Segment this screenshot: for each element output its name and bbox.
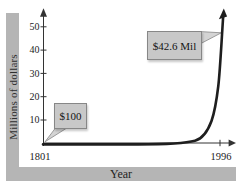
y-axis-arrowhead-icon — [40, 8, 47, 17]
x-axis-arrowhead-icon — [229, 140, 236, 147]
curve-arrowhead-icon — [219, 9, 227, 20]
annotation-end-value: $42.6 Mil — [147, 31, 202, 60]
annotation-end-label: $42.6 Mil — [153, 40, 196, 52]
y-tick-label-40: 40 — [30, 44, 40, 55]
end-callout-pointer — [199, 32, 221, 45]
y-tick-label-50: 50 — [30, 21, 40, 32]
x-tick-label-1801: 1801 — [30, 151, 51, 162]
exponential-growth-chart: Year Millions of dollars 10 20 30 40 50 … — [0, 0, 243, 189]
x-tick-label-1996: 1996 — [211, 151, 232, 162]
plot-area: 10 20 30 40 50 1801 1996 — [0, 0, 243, 189]
annotation-start-value: $100 — [54, 103, 87, 129]
y-tick-label-10: 10 — [30, 114, 40, 125]
y-tick-label-20: 20 — [30, 91, 40, 102]
y-tick-label-30: 30 — [30, 68, 40, 79]
annotation-start-label: $100 — [60, 110, 82, 122]
